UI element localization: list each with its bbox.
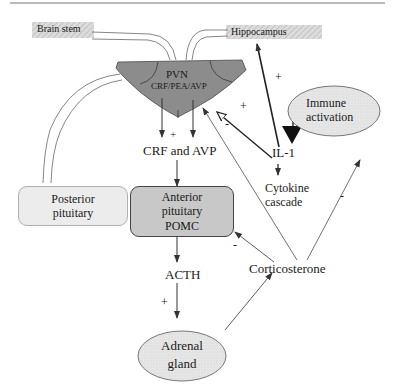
immune-line2: activation (306, 111, 353, 125)
pvn-subtitle: CRF/PEA/AVP (151, 81, 207, 91)
sign-cort-anterior: - (233, 239, 237, 253)
immune-label: Immune activation (306, 97, 353, 125)
posterior-pituitary-box: Posterior pituitary (18, 186, 128, 226)
acth-label: ACTH (165, 268, 200, 283)
il1-label: IL-1 (272, 146, 295, 161)
sign-cort-pvn: - (225, 118, 229, 132)
pvn-title: PVN (166, 68, 188, 81)
adrenal-line1: Adrenal (152, 337, 212, 355)
immune-line1: Immune (306, 97, 353, 111)
cytokine-label: Cytokine cascade (265, 182, 309, 210)
crf-avp-label: CRF and AVP (143, 144, 216, 159)
cytokine-line1: Cytokine (265, 182, 309, 196)
corticosterone-label: Corticosterone (249, 262, 326, 277)
posterior-line1: Posterior (51, 192, 94, 206)
anterior-pituitary-box: Anterior pituitary POMC (130, 186, 234, 237)
anterior-line2: pituitary (162, 204, 203, 218)
sign-il1-hippocampus: + (275, 71, 282, 85)
anterior-line1: Anterior (162, 190, 203, 204)
cytokine-line2: cascade (265, 196, 309, 210)
sign-il1-pvn: + (240, 100, 247, 114)
adrenal-label: Adrenal gland (152, 337, 212, 373)
posterior-line2: pituitary (53, 206, 94, 220)
sign-acth-adrenal: + (161, 296, 168, 310)
hippocampus-label: Hippocampus (231, 26, 287, 38)
sign-cort-immune: - (340, 190, 344, 204)
big-triangle (282, 126, 302, 144)
adrenal-line2: gland (152, 355, 212, 373)
brain-stem-label: Brain stem (37, 23, 81, 35)
anterior-line3: POMC (165, 219, 199, 233)
sign-pvn-crf: + (170, 128, 176, 141)
